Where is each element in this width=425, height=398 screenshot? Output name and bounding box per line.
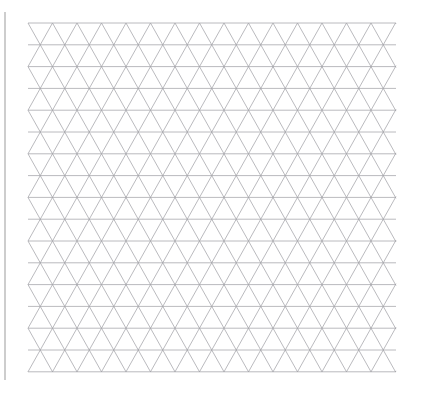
grid-line-diagonal-up (395, 371, 396, 372)
paper-background (0, 0, 425, 398)
page-canvas (0, 0, 425, 398)
grid-paper-svg (0, 0, 425, 398)
